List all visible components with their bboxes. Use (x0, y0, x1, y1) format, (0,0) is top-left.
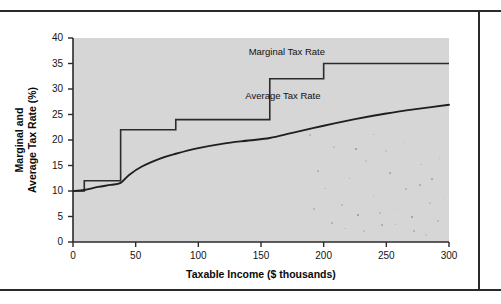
x-tick-label: 0 (55, 250, 91, 261)
y-tick-label: 30 (41, 83, 63, 94)
average-tax-rate-line (73, 105, 449, 191)
average-tax-rate-label: Average Tax Rate (245, 90, 320, 101)
x-tick-label: 200 (306, 250, 342, 261)
y-axis-title: Marginal and Average Tax Rate (%) (8, 38, 44, 242)
tick-marks (68, 38, 449, 247)
plot-svg (73, 38, 449, 242)
y-tick-label: 0 (41, 236, 63, 247)
y-tick-label: 5 (41, 211, 63, 222)
y-tick-label: 20 (41, 134, 63, 145)
y-tick-label: 10 (41, 185, 63, 196)
x-tick-label: 250 (368, 250, 404, 261)
x-tick-label: 300 (431, 250, 467, 261)
y-axis-title-line2: Average Tax Rate (%) (26, 87, 38, 193)
top-rule (0, 10, 501, 12)
marginal-tax-rate-line (73, 64, 449, 192)
plot-area: Marginal Tax Rate Average Tax Rate (73, 38, 449, 242)
bottom-rule (0, 289, 501, 291)
y-tick-label: 35 (41, 58, 63, 69)
y-tick-label: 40 (41, 32, 63, 43)
x-tick-label: 50 (118, 250, 154, 261)
x-axis-title: Taxable Income ($ thousands) (73, 268, 449, 280)
x-tick-label: 100 (180, 250, 216, 261)
right-rule (478, 10, 480, 291)
marginal-tax-rate-label: Marginal Tax Rate (249, 46, 325, 57)
y-tick-label: 25 (41, 109, 63, 120)
figure-container: Marginal and Average Tax Rate (%) 051015… (0, 0, 501, 304)
y-tick-label: 15 (41, 160, 63, 171)
y-axis-title-line1: Marginal and (13, 108, 25, 173)
x-tick-label: 150 (243, 250, 279, 261)
